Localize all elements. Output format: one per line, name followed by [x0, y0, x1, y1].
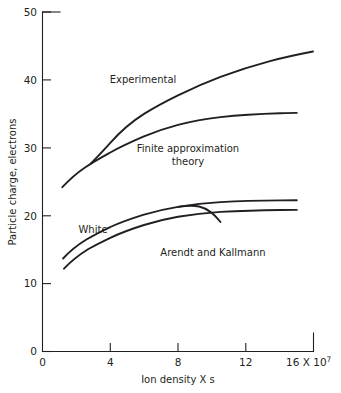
y-tick-label-40: 40: [24, 74, 37, 86]
series-label-white: White: [78, 224, 107, 235]
x-tick-label-4: 4: [107, 356, 114, 368]
y-tick-label-50: 50: [24, 6, 37, 18]
x-tick-label-0: 0: [39, 356, 46, 368]
series-label-finite-approximation-theory-line2: theory: [172, 156, 205, 167]
y-tick-label-0: 0: [30, 345, 37, 357]
chart-figure: 0 10 20 30 40 50 0 4 8 12 16 X 107 Ion d…: [0, 0, 341, 393]
x-tick-labels: 0 4 8 12 16 X 107: [39, 355, 331, 369]
series-label-arendt-and-kallmann: Arendt and Kallmann: [160, 247, 265, 258]
x-axis-title: Ion density X s: [141, 374, 215, 385]
x-axis-ticks: [110, 343, 246, 352]
series-curve-arendt-and-kallmann: [64, 210, 297, 269]
series-label-experimental: Experimental: [110, 74, 177, 85]
y-tick-label-10: 10: [24, 277, 37, 289]
y-tick-label-20: 20: [24, 210, 37, 222]
y-tick-label-30: 30: [24, 142, 37, 154]
line-chart: 0 10 20 30 40 50 0 4 8 12 16 X 107 Ion d…: [0, 0, 341, 393]
series-label-finite-approximation-theory-line1: Finite approximation: [137, 143, 239, 154]
series-annotations: Experimental Finite approximation theory…: [78, 74, 265, 258]
y-axis-ticks: [43, 12, 52, 352]
x-tick-label-16-base: 16 X 10: [286, 356, 327, 368]
x-axis-exponent: 7: [327, 355, 332, 364]
y-tick-labels: 0 10 20 30 40 50: [24, 6, 37, 357]
x-tick-label-12: 12: [239, 356, 252, 368]
chart-axes: [43, 12, 314, 352]
x-tick-label-16: 16 X 107: [286, 355, 332, 369]
y-axis-title: Particle charge, electrons: [7, 119, 18, 246]
x-tick-label-8: 8: [175, 356, 182, 368]
